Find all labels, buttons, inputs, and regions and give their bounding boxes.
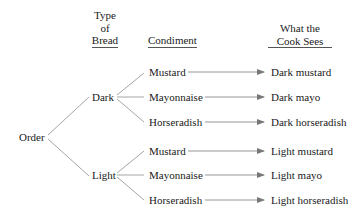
edge-dark-mustard <box>117 73 144 95</box>
header-result-line-2: Cook Sees <box>268 35 332 49</box>
edge-light-horseradish <box>117 177 144 200</box>
node-light-horseradish: Horseradish <box>149 194 202 206</box>
header-condiment: Condiment <box>148 34 197 48</box>
node-light-mayonnaise: Mayonnaise <box>149 169 203 181</box>
node-light-mustard: Mustard <box>149 145 186 157</box>
result-light-mayo: Light mayo <box>271 169 322 181</box>
header-bread-line-1: Type <box>88 9 122 22</box>
edge-order-dark <box>48 97 89 135</box>
edge-order-light <box>48 139 89 176</box>
result-dark-mustard: Dark mustard <box>271 66 331 78</box>
node-bread-dark: Dark <box>92 91 114 103</box>
node-dark-mayonnaise: Mayonnaise <box>149 91 203 103</box>
node-order: Order <box>19 131 45 143</box>
result-dark-horseradish: Dark horseradish <box>271 116 346 128</box>
result-light-mustard: Light mustard <box>271 145 333 157</box>
node-dark-mustard: Mustard <box>149 66 186 78</box>
node-dark-horseradish: Horseradish <box>149 116 202 128</box>
header-bread-line-2: of <box>88 22 122 35</box>
header-condiment-label: Condiment <box>148 34 197 48</box>
header-what-cook-sees: What the Cook Sees <box>268 22 332 48</box>
node-bread-light: Light <box>92 169 116 181</box>
header-type-of-bread: Type of Bread <box>88 9 122 48</box>
edge-light-mustard <box>117 151 144 173</box>
result-dark-mayo: Dark mayo <box>271 91 320 103</box>
result-light-horseradish: Light horseradish <box>271 194 348 206</box>
header-result-line-1: What the <box>268 22 332 35</box>
header-bread-line-3: Bread <box>92 34 118 48</box>
edge-dark-horseradish <box>117 99 144 122</box>
